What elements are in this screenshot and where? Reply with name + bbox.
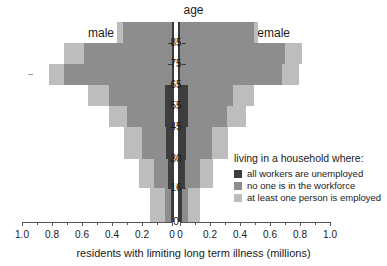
segment-female-75-85-no-one-is-in-the-workforce xyxy=(180,43,285,64)
x-minor-female-3 xyxy=(285,222,286,225)
x-tick-female-0-label: 0 xyxy=(165,229,195,240)
x-tick-male-0.6-label: 0.6 xyxy=(67,229,97,240)
x-minor-female-1 xyxy=(225,222,226,225)
bar-female-55-65 xyxy=(180,85,330,106)
x-tick-female-0 xyxy=(180,222,181,226)
x-tick-female-0.4-label: 0.4 xyxy=(225,229,255,240)
segment-female-55-65-at-least-one-person-is-employed xyxy=(233,85,254,106)
bar-male-30-45 xyxy=(22,127,172,159)
legend-swatch-employed xyxy=(234,194,242,202)
x-tick-female-1.0-label: 1.0 xyxy=(315,229,345,240)
x-tick-male-0.6 xyxy=(82,222,83,226)
legend-label-not_in_workforce: no one is in the workforce xyxy=(247,180,355,191)
segment-female-75-85-at-least-one-person-is-employed xyxy=(285,43,302,64)
segment-male-30-45-at-least-one-person-is-employed xyxy=(124,127,142,159)
segment-female-16-30-at-least-one-person-is-employed xyxy=(200,159,214,188)
legend-swatch-not_in_workforce xyxy=(234,182,242,190)
segment-female-65-75-no-one-is-in-the-workforce xyxy=(180,64,282,85)
segment-female-30-45-at-least-one-person-is-employed xyxy=(212,127,229,159)
segment-male-45-55-at-least-one-person-is-employed xyxy=(109,106,127,127)
segment-female-85+-at-least-one-person-is-employed xyxy=(254,22,259,43)
x-tick-male-0.8-label: 0.8 xyxy=(37,229,67,240)
bar-male-75-85 xyxy=(22,43,172,64)
x-tick-male-0 xyxy=(172,222,173,226)
legend-item-employed[interactable]: at least one person is employed xyxy=(234,192,386,203)
x-tick-female-0.2-label: 0.2 xyxy=(195,229,225,240)
legend-rows: all workers are unemployedno one is in t… xyxy=(234,168,386,203)
segment-male-45-55-no-one-is-in-the-workforce xyxy=(127,106,165,127)
x-minor-female-0 xyxy=(195,222,196,225)
x-tick-male-1.0 xyxy=(22,222,23,226)
segment-male-75-85-no-one-is-in-the-workforce xyxy=(84,43,173,64)
bar-male-55-65 xyxy=(22,85,172,106)
bar-male-65-75 xyxy=(22,64,172,85)
legend-label-employed: at least one person is employed xyxy=(247,192,381,203)
segment-female-45-55-no-one-is-in-the-workforce xyxy=(188,106,227,127)
segment-male-85+-at-least-one-person-is-employed xyxy=(117,22,123,43)
segment-female-0-16-at-least-one-person-is-employed xyxy=(188,188,200,222)
age-tick-label-85: 85 xyxy=(164,38,188,48)
legend-item-unemployed[interactable]: all workers are unemployed xyxy=(234,168,386,179)
segment-male-75-85-at-least-one-person-is-employed xyxy=(64,43,84,64)
x-tick-male-0.4-label: 0.4 xyxy=(97,229,127,240)
x-minor-male-4 xyxy=(157,222,158,225)
age-tick-label-65: 65 xyxy=(164,80,188,90)
x-minor-female-4 xyxy=(315,222,316,225)
x-minor-male-3 xyxy=(127,222,128,225)
age-axis-title: age xyxy=(0,3,387,17)
legend-item-not_in_workforce[interactable]: no one is in the workforce xyxy=(234,180,386,191)
x-tick-female-0.2 xyxy=(210,222,211,226)
x-tick-female-0.6-label: 0.6 xyxy=(255,229,285,240)
x-minor-male-0 xyxy=(37,222,38,225)
x-tick-male-0.2-label: 0.2 xyxy=(127,229,157,240)
x-tick-female-0.6 xyxy=(270,222,271,226)
bar-female-75-85 xyxy=(180,43,330,64)
segment-female-55-65-no-one-is-in-the-workforce xyxy=(188,85,233,106)
bar-female-85+ xyxy=(180,22,330,43)
x-tick-female-1.0 xyxy=(330,222,331,226)
segment-male-55-65-at-least-one-person-is-employed xyxy=(88,85,109,106)
age-tick-label-16: 16 xyxy=(164,183,188,193)
segment-female-30-45-no-one-is-in-the-workforce xyxy=(186,127,212,159)
segment-male-0-16-at-least-one-person-is-employed xyxy=(150,188,165,222)
x-minor-male-1 xyxy=(67,222,68,225)
segment-male-30-45-no-one-is-in-the-workforce xyxy=(142,127,166,159)
age-tick-label-30: 30 xyxy=(164,154,188,164)
segment-male-55-65-no-one-is-in-the-workforce xyxy=(109,85,165,106)
x-tick-male-0.8 xyxy=(52,222,53,226)
segment-female-45-55-at-least-one-person-is-employed xyxy=(227,106,247,127)
bar-male-85+ xyxy=(22,22,172,43)
segment-male-65-75-at-least-one-person-is-employed xyxy=(49,64,64,85)
age-tick-label-45: 45 xyxy=(164,122,188,132)
x-tick-male-0.4 xyxy=(112,222,113,226)
x-tick-male-0.2 xyxy=(142,222,143,226)
bar-female-65-75 xyxy=(180,64,330,85)
segment-male-65-75-no-one-is-in-the-workforce xyxy=(64,64,172,85)
legend-title: living in a household where: xyxy=(234,152,386,164)
segment-female-85+-no-one-is-in-the-workforce xyxy=(180,22,254,43)
legend: living in a household where: all workers… xyxy=(234,152,386,204)
x-tick-male-1.0-label: 1.0 xyxy=(7,229,37,240)
age-tick-label-55: 55 xyxy=(164,101,188,111)
legend-swatch-unemployed xyxy=(234,170,242,178)
x-minor-female-2 xyxy=(255,222,256,225)
bar-female-45-55 xyxy=(180,106,330,127)
x-tick-female-0.4 xyxy=(240,222,241,226)
x-minor-male-2 xyxy=(97,222,98,225)
x-axis-title: residents with limiting long term illnes… xyxy=(0,247,387,259)
x-tick-female-0.8 xyxy=(300,222,301,226)
age-tick-label-75: 75 xyxy=(164,59,188,69)
bar-male-0-16 xyxy=(22,188,172,222)
bar-male-45-55 xyxy=(22,106,172,127)
population-pyramid-chart: age male female 016304555657585 1.00.80.… xyxy=(0,0,387,266)
male-plot-area xyxy=(22,22,172,222)
segment-female-65-75-at-least-one-person-is-employed xyxy=(282,64,299,85)
bar-male-16-30 xyxy=(22,159,172,188)
segment-male-16-30-at-least-one-person-is-employed xyxy=(139,159,154,188)
legend-label-unemployed: all workers are unemployed xyxy=(247,168,363,179)
x-tick-female-0.8-label: 0.8 xyxy=(285,229,315,240)
